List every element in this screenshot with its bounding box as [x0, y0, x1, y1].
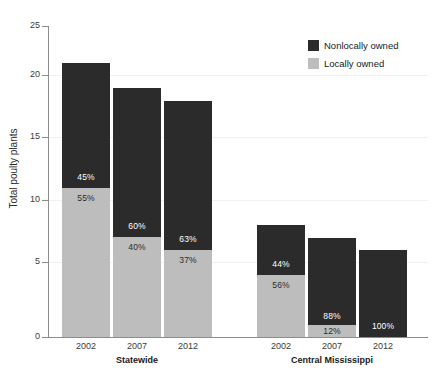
x-tick-label-statewide-2002: 2002 [62, 341, 110, 352]
legend-item-nonlocally-owned[interactable]: Nonlocally owned [308, 38, 398, 53]
bar-segment-label-nonlocally-owned: 44% [257, 260, 305, 269]
bar-segment-label-nonlocally-owned: 63% [164, 235, 212, 244]
bar-segment-nonlocally-owned: 60% [113, 88, 161, 237]
bar-segment-nonlocally-owned: 100% [359, 250, 407, 337]
y-tick-label-15: 15 [4, 132, 40, 141]
legend-swatch-nonlocally-owned [308, 40, 319, 51]
y-tick-label-20: 20 [4, 70, 40, 79]
x-tick-label-statewide-2007: 2007 [113, 341, 161, 352]
bar-segment-label-locally-owned: 56% [257, 281, 305, 290]
bar-segment-label-nonlocally-owned: 100% [359, 322, 407, 331]
bar-segment-label-nonlocally-owned: 60% [113, 222, 161, 231]
x-axis-line [48, 337, 428, 338]
y-tick-25: 25 [0, 21, 40, 30]
legend-label-nonlocally-owned: Nonlocally owned [324, 40, 398, 51]
bar-segment-label-nonlocally-owned: 45% [62, 173, 110, 182]
y-tick-20: 20 [0, 70, 40, 79]
bar-statewide-2012[interactable]: 63% 37% [164, 101, 212, 337]
y-axis-line [48, 26, 49, 337]
poultry-plants-stacked-bar-chart: Total poulty plants 25 20 15 10 5 0 45% … [0, 0, 436, 376]
y-tick-label-25: 25 [4, 21, 40, 30]
legend: Nonlocally owned Locally owned [308, 38, 398, 74]
group-label-statewide: Statewide [62, 355, 212, 366]
bar-segment-nonlocally-owned: 45% [62, 63, 110, 188]
bar-segment-locally-owned: 55% [62, 188, 110, 337]
bar-central-mississippi-2012[interactable]: 100% [359, 250, 407, 337]
legend-item-locally-owned[interactable]: Locally owned [308, 56, 398, 71]
group-label-central-mississippi: Central Mississippi [257, 355, 407, 366]
bar-statewide-2002[interactable]: 45% 55% [62, 63, 110, 337]
y-tick-label-5: 5 [4, 257, 40, 266]
y-tick-0: 0 [0, 332, 40, 341]
bar-segment-label-nonlocally-owned: 88% [308, 312, 356, 321]
y-tick-15: 15 [0, 132, 40, 141]
y-axis-title: Total poulty plants [6, 0, 20, 337]
bar-segment-locally-owned: 12% [308, 325, 356, 337]
bar-segment-nonlocally-owned: 63% [164, 101, 212, 250]
bar-segment-nonlocally-owned: 88% [308, 238, 356, 325]
bar-segment-locally-owned: 37% [164, 250, 212, 337]
bar-segment-label-locally-owned: 37% [164, 256, 212, 265]
y-tick-5: 5 [0, 257, 40, 266]
y-tick-label-0: 0 [4, 332, 40, 341]
bar-segment-label-locally-owned: 12% [308, 327, 356, 336]
legend-swatch-locally-owned [308, 58, 319, 69]
legend-label-locally-owned: Locally owned [324, 58, 384, 69]
bar-segment-locally-owned: 56% [257, 275, 305, 337]
bar-statewide-2007[interactable]: 60% 40% [113, 88, 161, 337]
x-tick-label-central-mississippi-2012: 2012 [359, 341, 407, 352]
bar-segment-locally-owned: 40% [113, 237, 161, 337]
bar-central-mississippi-2007[interactable]: 88% 12% [308, 238, 356, 337]
bar-segment-label-locally-owned: 40% [113, 243, 161, 252]
bar-central-mississippi-2002[interactable]: 44% 56% [257, 225, 305, 337]
x-tick-label-central-mississippi-2002: 2002 [257, 341, 305, 352]
x-tick-label-central-mississippi-2007: 2007 [308, 341, 356, 352]
bar-segment-label-locally-owned: 55% [62, 194, 110, 203]
bar-segment-nonlocally-owned: 44% [257, 225, 305, 275]
y-tick-label-10: 10 [4, 195, 40, 204]
y-tick-10: 10 [0, 195, 40, 204]
x-tick-label-statewide-2012: 2012 [164, 341, 212, 352]
